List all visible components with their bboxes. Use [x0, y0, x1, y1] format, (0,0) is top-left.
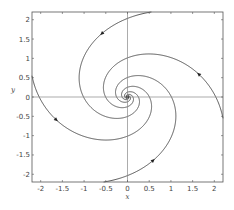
y-tick-label: 1.5 [19, 36, 30, 44]
y-axis-ticks: -2-1.5-1-0.500.511.52 [16, 16, 223, 179]
x-tick-label: 0 [125, 185, 129, 193]
x-tick-label: -1.5 [56, 185, 70, 193]
x-tick-label: 0.5 [144, 185, 155, 193]
phase-portrait-chart: -2-1.5-1-0.500.511.52 -2-1.5-1-0.500.511… [0, 0, 234, 210]
x-axis-label: x [126, 193, 130, 201]
y-tick-label: 0 [26, 94, 30, 102]
y-tick-label: 0.5 [19, 74, 30, 82]
x-tick-label: 1.5 [187, 185, 198, 193]
y-tick-label: -2 [23, 171, 30, 179]
x-tick-label: -0.5 [99, 185, 113, 193]
x-tick-label: -2 [37, 185, 44, 193]
y-tick-label: 1 [26, 55, 30, 63]
y-axis-label: y [10, 86, 16, 94]
y-tick-label: 2 [26, 16, 30, 24]
y-tick-label: -1 [23, 132, 30, 140]
x-tick-label: 2 [212, 185, 216, 193]
y-tick-label: -1.5 [16, 151, 30, 159]
x-tick-label: 1 [169, 185, 173, 193]
y-tick-label: -0.5 [16, 113, 30, 121]
x-tick-label: -1 [81, 185, 88, 193]
